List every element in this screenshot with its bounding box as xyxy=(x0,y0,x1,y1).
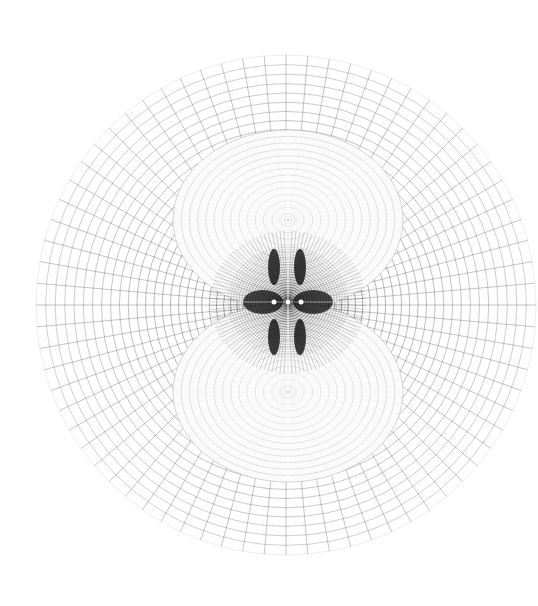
polar-mesh-plot xyxy=(0,0,538,606)
mesh-figure xyxy=(0,0,538,606)
